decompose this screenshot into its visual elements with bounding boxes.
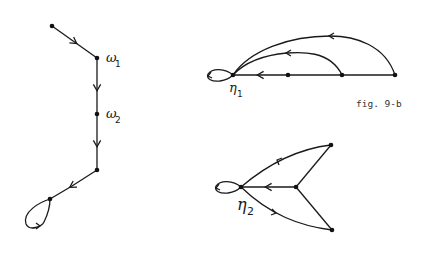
figure-canvas: ω 1 ω 2 η 1 fig. 9-b: [0, 0, 431, 253]
node-w1: [95, 56, 100, 61]
edge-a-w1: [52, 26, 97, 58]
figure-caption: fig. 9-b: [356, 98, 402, 109]
node-a: [50, 24, 55, 29]
label-omega-2-sub: 2: [115, 115, 121, 125]
node-u: [330, 228, 335, 233]
self-loop-n2: [216, 182, 241, 194]
label-omega-1-sub: 1: [115, 59, 121, 69]
node-m: [294, 185, 299, 190]
node-q: [340, 73, 345, 78]
label-eta-2-sub: 2: [247, 205, 254, 218]
chain-graph: ω 1 ω 2: [25, 24, 120, 229]
edge-q-n1: [233, 52, 342, 75]
label-eta-2: η: [237, 195, 247, 214]
label-eta-1-sub: 1: [237, 89, 243, 99]
label-eta-1: η: [229, 80, 237, 95]
edge-u-n2: [241, 187, 332, 230]
node-w2: [95, 112, 100, 117]
self-loop-c-arrow: [36, 223, 40, 229]
eta1-graph: η 1: [208, 33, 398, 99]
edge-r-n1: [233, 36, 395, 75]
eta2-graph: η 2: [216, 143, 335, 233]
node-c: [48, 197, 53, 202]
edge-t-n2: [241, 145, 331, 187]
node-t: [329, 143, 334, 148]
edge-b-c: [50, 170, 97, 199]
node-p: [286, 73, 291, 78]
node-b: [95, 168, 100, 173]
node-n2: [239, 185, 244, 190]
node-n1: [231, 73, 236, 78]
node-r: [393, 73, 398, 78]
